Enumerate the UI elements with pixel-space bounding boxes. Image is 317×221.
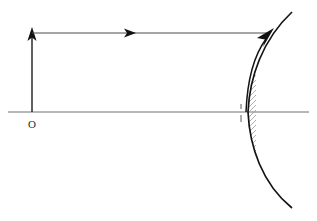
optics-ray-diagram: O bbox=[0, 0, 317, 221]
concave-mirror-surface bbox=[248, 12, 292, 208]
origin-label: O bbox=[28, 118, 36, 130]
diagram-canvas: O bbox=[0, 0, 317, 221]
